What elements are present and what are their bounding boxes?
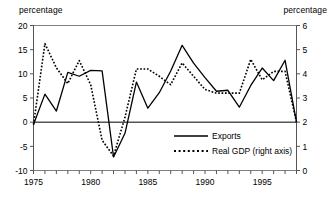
y-tick-label-right: 3 — [303, 93, 308, 103]
left-axis-ticks — [30, 26, 34, 171]
x-axis-ticks — [34, 171, 297, 175]
x-tick-label: 1995 — [253, 177, 272, 187]
y-tick-label-right: 5 — [303, 45, 308, 55]
y-tick-label-right: 6 — [303, 21, 308, 31]
left-axis-tick-labels: 20151050-5-10 — [15, 21, 28, 176]
legend-label: Exports — [212, 131, 241, 141]
series-line-exports — [34, 45, 297, 157]
x-tick-label: 1985 — [138, 177, 157, 187]
x-tick-label: 1980 — [81, 177, 100, 187]
legend-label: Real GDP (right axis) — [212, 146, 292, 156]
y-tick-label-left: 5 — [23, 93, 28, 103]
data-series-group — [34, 44, 297, 157]
chart-container: percentage percentage 197519801985199019… — [0, 0, 332, 199]
y-tick-label-left: 15 — [18, 45, 28, 55]
chart-legend: ExportsReal GDP (right axis) — [174, 131, 292, 156]
x-tick-label: 1975 — [24, 177, 43, 187]
line-chart-plot: 19751980198519901995 20151050-5-10 65432… — [0, 0, 332, 199]
y-tick-label-left: 20 — [18, 21, 28, 31]
y-tick-label-left: 0 — [23, 117, 28, 127]
y-tick-label-right: 2 — [303, 117, 308, 127]
y-tick-label-right: 4 — [303, 69, 308, 79]
y-tick-label-right: 0 — [303, 166, 308, 176]
y-tick-label-left: -10 — [15, 166, 28, 176]
y-tick-label-left: -5 — [20, 142, 28, 152]
series-line-real-gdp-right-axis — [34, 44, 297, 156]
right-axis-tick-labels: 6543210 — [303, 21, 308, 176]
y-tick-label-left: 10 — [18, 69, 28, 79]
x-tick-label: 1990 — [196, 177, 215, 187]
x-axis-tick-labels: 19751980198519901995 — [24, 177, 272, 187]
right-axis-ticks — [297, 26, 301, 171]
y-tick-label-right: 1 — [303, 142, 308, 152]
